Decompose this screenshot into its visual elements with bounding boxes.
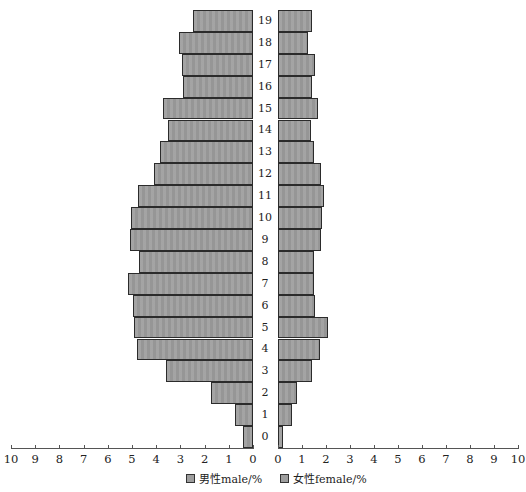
left-axis-tick [229,445,230,449]
bar-female-age-8 [278,251,314,273]
age-label: 13 [253,145,277,158]
bar-male-age-10 [131,207,253,229]
left-axis-tick-label: 10 [1,452,21,466]
legend-male: 男性male/% [186,470,262,486]
age-label: 11 [253,189,277,202]
left-axis-tick [253,445,254,449]
age-label: 2 [253,386,277,399]
right-axis-tick-label: 10 [508,452,526,466]
age-label: 0 [253,430,277,443]
age-label: 1 [253,408,277,421]
bar-male-age-12 [154,163,253,185]
bar-male-age-18 [179,32,253,54]
right-axis-tick [278,445,279,449]
bar-male-age-7 [128,273,253,295]
left-axis-tick-label: 3 [170,452,190,466]
bar-female-age-14 [278,120,311,142]
bar-male-age-0 [243,426,253,448]
bar-male-age-19 [193,10,254,32]
age-label: 5 [253,321,277,334]
left-axis-tick-label: 6 [98,452,118,466]
bar-male-age-17 [182,54,253,76]
bar-male-age-9 [130,229,253,251]
age-label: 15 [253,102,277,115]
bar-female-age-2 [278,382,297,404]
right-axis-tick [326,445,327,449]
bar-female-age-18 [278,32,308,54]
bar-female-age-19 [278,10,312,32]
right-axis-tick [374,445,375,449]
right-axis-tick-label: 0 [268,452,288,466]
left-axis-tick-label: 1 [219,452,239,466]
left-axis-tick [205,445,206,449]
left-axis-tick-label: 8 [49,452,69,466]
legend-swatch-female [280,474,289,483]
age-label: 6 [253,299,277,312]
left-axis-tick [11,445,12,449]
bar-female-age-13 [278,141,314,163]
age-label: 9 [253,233,277,246]
legend-label-female: 女性female/% [293,470,367,486]
right-axis-tick-label: 6 [412,452,432,466]
right-axis-tick [302,445,303,449]
age-label: 14 [253,123,277,136]
bar-male-age-8 [139,251,253,273]
bar-male-age-13 [160,141,253,163]
left-axis-tick [35,445,36,449]
left-axis-tick [84,445,85,449]
bar-male-age-6 [133,295,253,317]
right-axis-tick-label: 7 [436,452,456,466]
right-axis-tick [470,445,471,449]
bar-male-age-2 [211,382,253,404]
right-axis-tick-label: 1 [292,452,312,466]
age-label: 4 [253,342,277,355]
left-axis-tick-label: 0 [243,452,263,466]
bar-male-age-4 [137,339,253,361]
legend-label-male: 男性male/% [199,470,262,486]
age-label: 17 [253,58,277,71]
bar-female-age-4 [278,339,320,361]
age-label: 18 [253,36,277,49]
bar-female-age-11 [278,185,324,207]
right-axis-tick-label: 3 [340,452,360,466]
bar-female-age-12 [278,163,321,185]
left-axis-tick-label: 7 [74,452,94,466]
right-axis-tick-label: 4 [364,452,384,466]
bar-female-age-5 [278,317,328,339]
age-label: 8 [253,255,277,268]
right-axis-tick-label: 5 [388,452,408,466]
bar-female-age-1 [278,404,292,426]
bar-female-age-10 [278,207,322,229]
left-axis-tick [132,445,133,449]
population-pyramid-chart: 0123456789101112131415161718191098765432… [0,0,526,492]
left-axis-tick-label: 5 [122,452,142,466]
right-axis-tick-label: 9 [484,452,504,466]
bar-female-age-7 [278,273,314,295]
bar-female-age-9 [278,229,321,251]
left-axis-tick-label: 2 [195,452,215,466]
bar-male-age-11 [138,185,253,207]
right-axis-tick [422,445,423,449]
left-axis-tick-label: 4 [146,452,166,466]
bar-male-age-1 [235,404,253,426]
bar-female-age-15 [278,98,318,120]
bar-male-age-3 [166,360,253,382]
bar-female-age-17 [278,54,315,76]
right-axis-tick [446,445,447,449]
left-axis-tick-label: 9 [25,452,45,466]
age-label: 3 [253,364,277,377]
bar-female-age-6 [278,295,315,317]
right-axis-tick [398,445,399,449]
bar-male-age-15 [163,98,253,120]
legend-female: 女性female/% [280,470,367,486]
left-axis-tick [108,445,109,449]
bar-female-age-3 [278,360,312,382]
age-label: 10 [253,211,277,224]
bar-male-age-14 [168,120,253,142]
age-label: 19 [253,14,277,27]
left-axis-tick [180,445,181,449]
left-axis-tick [59,445,60,449]
right-axis-tick [350,445,351,449]
right-axis-tick [494,445,495,449]
bar-female-age-16 [278,76,312,98]
